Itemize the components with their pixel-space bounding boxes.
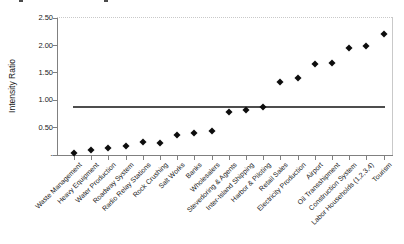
- x-axis-tick: [229, 156, 230, 160]
- x-axis-tick: [74, 156, 75, 160]
- x-axis-tick: [349, 156, 350, 160]
- data-point-marker: [88, 146, 95, 153]
- data-point-marker: [380, 31, 387, 38]
- x-axis-tick: [91, 156, 92, 160]
- y-axis-tick: [53, 18, 57, 19]
- y-axis-tick-label: 2.50: [23, 13, 53, 22]
- y-axis-tick: [53, 155, 57, 156]
- y-axis-tick-label: 2.00: [23, 41, 53, 50]
- y-axis-title: Intensity Ratio: [7, 16, 19, 156]
- data-point-marker: [156, 139, 163, 146]
- x-axis-tick: [263, 156, 264, 160]
- y-axis-line: [57, 18, 58, 156]
- cropped-text-fragment: [19, 0, 23, 2]
- intensity-ratio-chart: Intensity Ratio -0.501.001.502.002.50 Wa…: [0, 0, 404, 244]
- x-axis-tick: [126, 156, 127, 160]
- x-axis-tick: [315, 156, 316, 160]
- data-point-marker: [328, 59, 335, 66]
- data-point-marker: [208, 127, 215, 134]
- data-point-marker: [294, 75, 301, 82]
- x-axis-tick: [332, 156, 333, 160]
- y-axis-tick: [53, 127, 57, 128]
- data-point-marker: [363, 43, 370, 50]
- x-axis-tick: [212, 156, 213, 160]
- data-point-marker: [105, 144, 112, 151]
- x-axis-tick: [160, 156, 161, 160]
- data-point-marker: [174, 132, 181, 139]
- plot-border-right: [392, 17, 393, 156]
- data-point-marker: [139, 138, 146, 145]
- x-axis-tick: [246, 156, 247, 160]
- y-axis-tick-label: 1.50: [23, 68, 53, 77]
- y-axis-tick-label: 1.00: [23, 95, 53, 104]
- cropped-text-fragment: [104, 0, 108, 2]
- data-point-marker: [122, 142, 129, 149]
- y-axis-tick-label: 0.50: [23, 123, 53, 132]
- data-point-marker: [277, 79, 284, 86]
- x-axis-tick: [298, 156, 299, 160]
- x-axis-tick: [384, 156, 385, 160]
- y-axis-tick: [53, 45, 57, 46]
- x-axis-tick: [194, 156, 195, 160]
- x-axis-tick: [143, 156, 144, 160]
- plot-border-top: [57, 17, 392, 18]
- data-point-marker: [191, 129, 198, 136]
- x-axis-tick: [280, 156, 281, 160]
- data-point-marker: [225, 108, 232, 115]
- y-axis-tick-label: -: [23, 150, 53, 159]
- data-point-marker: [346, 44, 353, 51]
- x-axis-tick: [108, 156, 109, 160]
- data-point-marker: [311, 61, 318, 68]
- x-axis-tick: [366, 156, 367, 160]
- y-axis-tick: [53, 100, 57, 101]
- y-axis-tick: [53, 72, 57, 73]
- x-axis-tick: [177, 156, 178, 160]
